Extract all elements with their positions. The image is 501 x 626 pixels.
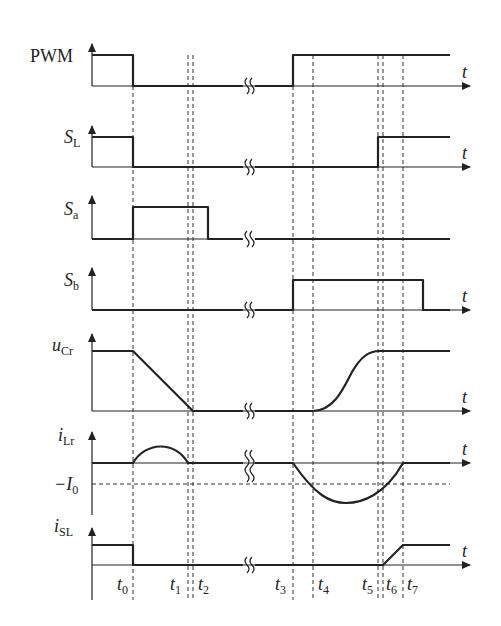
signal-sb: Sb t: [64, 268, 470, 318]
isl-t-label: t: [462, 541, 468, 561]
ucr-waveform-2: [255, 351, 450, 411]
time-label-t1: t1: [170, 574, 181, 597]
pwm-t-label: t: [462, 62, 468, 82]
ilr-waveform-2: [255, 463, 450, 503]
time-marker-labels: t0 t1 t2 t3 t4 t5 t6 t7: [117, 574, 418, 597]
sb-waveform-2: [255, 280, 450, 310]
break-icon: [245, 450, 254, 482]
timing-diagram: PWM t SL t Sa Sb t uCr: [0, 0, 501, 626]
time-label-t5: t5: [362, 574, 373, 597]
ucr-waveform: [92, 351, 243, 411]
signal-ilr: iLr −I0 t: [54, 425, 470, 515]
signal-label-isl: iSL: [54, 516, 73, 539]
signal-sa: Sa: [64, 196, 450, 247]
isl-waveform: [92, 545, 243, 565]
signal-label-ilr: iLr: [58, 425, 74, 448]
pwm-waveform: [92, 55, 243, 86]
sb-t-label: t: [462, 286, 468, 306]
signal-label-pwm: PWM: [30, 46, 73, 66]
signal-label-ucr: uCr: [52, 335, 73, 358]
signal-ucr: uCr t: [52, 334, 470, 419]
sl-waveform-2: [255, 137, 450, 167]
signal-label-sa: Sa: [64, 199, 79, 222]
time-label-t6: t6: [386, 574, 397, 597]
time-label-t4: t4: [318, 574, 329, 597]
ucr-t-label: t: [462, 387, 468, 407]
break-icon: [245, 231, 254, 247]
time-label-t2: t2: [198, 574, 209, 597]
signal-sl: SL t: [64, 126, 470, 175]
time-marker-lines: [133, 55, 403, 600]
pwm-waveform-2: [255, 55, 450, 86]
signal-label-sl: SL: [64, 127, 80, 150]
ref-level-label: −I0: [54, 474, 78, 497]
ilr-t-label: t: [462, 439, 468, 459]
time-label-t3: t3: [275, 574, 286, 597]
time-label-t7: t7: [407, 574, 418, 597]
sa-waveform: [92, 207, 243, 239]
time-label-t0: t0: [117, 574, 128, 597]
signal-label-sb: Sb: [64, 270, 79, 293]
isl-waveform-2: [255, 545, 450, 565]
sl-t-label: t: [462, 143, 468, 163]
signal-pwm: PWM t: [30, 44, 470, 94]
ilr-waveform: [92, 446, 243, 463]
sl-waveform: [92, 137, 243, 167]
